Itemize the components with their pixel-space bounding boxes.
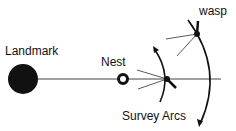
survey-arcs-label: Survey Arcs [122, 109, 186, 123]
nest-label: Nest [101, 55, 126, 69]
outer-view-ray [177, 34, 197, 56]
wasp-label: wasp [199, 4, 227, 18]
outer-wasp-body [197, 21, 198, 34]
landmark-label: Landmark [5, 44, 58, 58]
nest-ring [119, 75, 128, 84]
inner-wasp-body [167, 79, 176, 88]
inner-view-ray [137, 70, 167, 79]
outer-view-ray [166, 34, 197, 39]
landmark-circle [8, 64, 38, 94]
inner-view-ray [138, 79, 167, 89]
